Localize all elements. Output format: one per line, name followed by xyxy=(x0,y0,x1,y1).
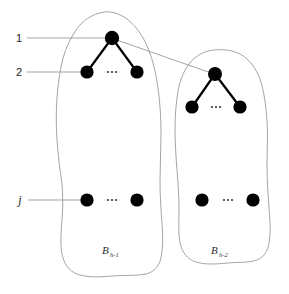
node-right-child-1 xyxy=(185,100,198,113)
node-left-child-2 xyxy=(130,65,143,78)
ellipsis-left-lower xyxy=(107,199,117,201)
ellipsis-right-upper xyxy=(211,106,221,108)
label-level-2: 2 xyxy=(16,66,22,78)
group-left-label-base: B xyxy=(102,244,109,256)
cross-link-root-to-root xyxy=(114,39,214,74)
group-left-label-subscript: h-1 xyxy=(110,251,119,258)
group-right-label-base: B xyxy=(211,244,218,256)
node-right-leaf-2 xyxy=(246,193,259,206)
group-right-label: B h-2 xyxy=(211,244,228,258)
group-left-label: B h-1 xyxy=(102,244,119,258)
binomial-tree-diagram: 1 2 j B h-1 B h-2 xyxy=(0,0,289,294)
node-right-root xyxy=(208,67,222,81)
label-level-1: 1 xyxy=(16,32,22,44)
node-right-child-2 xyxy=(233,100,246,113)
ellipsis-right-lower xyxy=(223,199,233,201)
node-right-leaf-1 xyxy=(195,193,208,206)
label-level-j: j xyxy=(16,193,22,207)
group-left-outline xyxy=(56,12,162,277)
node-left-leaf-2 xyxy=(130,193,143,206)
node-left-child-1 xyxy=(80,65,93,78)
group-right-outline xyxy=(175,50,270,264)
node-left-leaf-1 xyxy=(80,193,93,206)
node-left-root xyxy=(105,31,119,45)
ellipsis-left-upper xyxy=(107,71,117,73)
group-right-label-subscript: h-2 xyxy=(219,251,228,258)
